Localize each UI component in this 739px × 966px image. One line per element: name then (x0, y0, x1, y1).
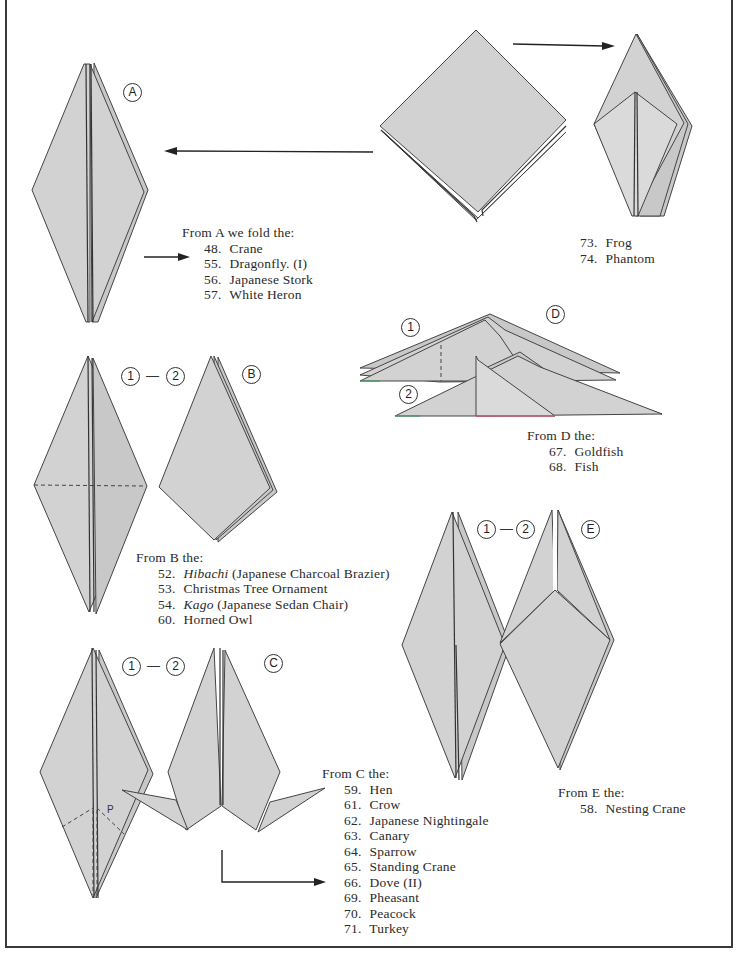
list-item: 52. Hibachi (Japanese Charcoal Brazier) (136, 566, 390, 582)
list-item: 55. Dragonfly. (I) (182, 256, 313, 272)
list-item: 59. Hen (322, 782, 489, 798)
label-C-step2: 2 (166, 657, 185, 676)
list-item: 71. Turkey (322, 921, 489, 937)
label-C-step1: 1 (122, 657, 141, 676)
label-B-step2: 2 (166, 367, 185, 386)
label-C: C (264, 654, 283, 673)
label-E: E (581, 520, 600, 539)
section-A-list: From A we fold the: 48. Crane 55. Dragon… (182, 225, 313, 303)
list-item: 63. Canary (322, 828, 489, 844)
fold-B-left-diagram (34, 356, 147, 614)
list-item: 53. Christmas Tree Ornament (136, 581, 390, 597)
fold-E-right-diagram (500, 510, 614, 770)
label-B-sep: — (146, 368, 159, 383)
list-item: 74. Phantom (558, 251, 655, 267)
list-item: 68. Fish (527, 459, 623, 475)
section-top-right-list: 73. Frog 74. Phantom (558, 235, 655, 266)
list-item: 73. Frog (558, 235, 655, 251)
list-item: 69. Pheasant (322, 890, 489, 906)
fold-E-left-diagram (402, 512, 510, 780)
section-D-header: From D the: (527, 428, 623, 444)
label-D-step1: 1 (401, 318, 420, 337)
arrow-C-list (222, 850, 326, 886)
fold-C-left-diagram (40, 648, 153, 898)
list-item: 65. Standing Crane (322, 859, 489, 875)
list-item: 67. Goldfish (527, 444, 623, 460)
label-point-P: P (107, 804, 114, 815)
list-item: 58. Nesting Crane (558, 801, 686, 817)
list-item: 54. Kago (Japanese Sedan Chair) (136, 597, 390, 613)
list-item: 48. Crane (182, 241, 313, 257)
list-item: 60. Horned Owl (136, 612, 390, 628)
section-C-header: From C the: (322, 766, 489, 782)
list-item: 66. Dove (II) (322, 875, 489, 891)
square-base-diagram (380, 30, 566, 222)
list-item: 62. Japanese Nightingale (322, 813, 489, 829)
section-B-header: From B the: (136, 550, 390, 566)
list-item: 56. Japanese Stork (182, 272, 313, 288)
label-B: B (242, 365, 261, 384)
section-E-header: From E the: (558, 785, 686, 801)
list-item: 61. Crow (322, 797, 489, 813)
label-E-step1: 1 (477, 520, 496, 539)
label-B-step1: 1 (121, 367, 140, 386)
list-item: 70. Peacock (322, 906, 489, 922)
arrow-square-to-bird (513, 42, 615, 50)
section-B-list: From B the: 52. Hibachi (Japanese Charco… (136, 550, 390, 628)
label-A: A (123, 83, 142, 102)
label-C-sep: — (147, 658, 160, 673)
arrow-to-A (164, 147, 373, 155)
label-E-step2: 2 (516, 520, 535, 539)
label-E-sep: — (500, 521, 513, 536)
label-D: D (546, 305, 565, 324)
fold-C-right-diagram (122, 648, 325, 832)
section-D-list: From D the: 67. Goldfish 68. Fish (527, 428, 623, 475)
list-item: 57. White Heron (182, 287, 313, 303)
section-E-list: From E the: 58. Nesting Crane (558, 785, 686, 816)
bird-base-diagram (594, 34, 692, 216)
label-D-step2: 2 (399, 385, 418, 404)
list-item: 64. Sparrow (322, 844, 489, 860)
section-A-header: From A we fold the: (182, 225, 313, 241)
section-C-list: From C the: 59. Hen 61. Crow 62. Japanes… (322, 766, 489, 937)
